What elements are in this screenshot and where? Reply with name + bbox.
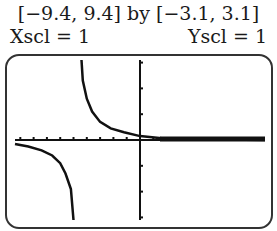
graph-plot — [0, 0, 277, 231]
curve-branch — [82, 60, 266, 140]
curve-branch — [15, 144, 74, 220]
